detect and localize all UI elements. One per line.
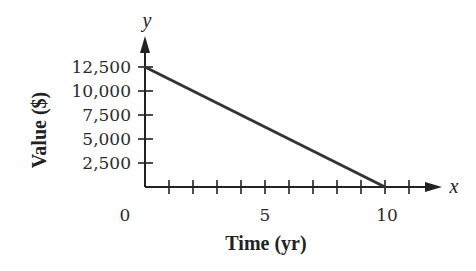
x-tick-label-origin: 0 bbox=[120, 205, 131, 225]
chart-svg: 12,500 10,000 7,500 5,000 2,500 0 5 10 y… bbox=[0, 0, 476, 271]
value-line bbox=[145, 67, 385, 187]
y-axis-arrow-icon bbox=[140, 36, 150, 53]
y-tick-label: 7,500 bbox=[82, 105, 131, 125]
y-tick-label: 12,500 bbox=[72, 57, 131, 77]
x-axis-variable: x bbox=[449, 175, 459, 197]
y-tick-label: 2,500 bbox=[82, 153, 131, 173]
y-axis-variable: y bbox=[141, 9, 152, 32]
x-axis-arrow-icon bbox=[425, 182, 442, 192]
x-tick-label: 5 bbox=[260, 205, 271, 225]
y-tick-label: 10,000 bbox=[72, 81, 131, 101]
chart: 12,500 10,000 7,500 5,000 2,500 0 5 10 y… bbox=[0, 0, 476, 271]
y-tick-label: 5,000 bbox=[82, 129, 131, 149]
y-axis-title: Value ($) bbox=[28, 92, 51, 168]
x-tick-label: 10 bbox=[376, 205, 398, 225]
x-axis-title: Time (yr) bbox=[225, 232, 306, 255]
